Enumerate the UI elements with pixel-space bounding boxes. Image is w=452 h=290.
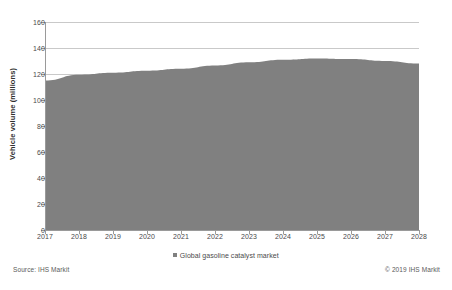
x-tick-mark-2017 xyxy=(45,230,46,234)
x-tick-label-2020: 2020 xyxy=(129,233,165,241)
x-tick-mark-2019 xyxy=(113,230,114,234)
x-tick-mark-2027 xyxy=(385,230,386,234)
legend-swatch-icon xyxy=(173,253,177,257)
x-tick-label-2022: 2022 xyxy=(197,233,233,241)
x-tick-mark-2021 xyxy=(181,230,182,234)
x-tick-mark-2026 xyxy=(351,230,352,234)
x-tick-label-2021: 2021 xyxy=(163,233,199,241)
x-tick-label-2023: 2023 xyxy=(231,233,267,241)
x-tick-label-2024: 2024 xyxy=(265,233,301,241)
copyright-note: © 2019 IHS Markit xyxy=(385,266,440,274)
x-tick-mark-2028 xyxy=(419,230,420,234)
x-tick-label-2025: 2025 xyxy=(299,233,335,241)
x-tick-label-2019: 2019 xyxy=(95,233,131,241)
source-note: Source: IHS Markit xyxy=(13,266,69,274)
legend-item-global-gasoline-catalyst-market[interactable]: Global gasoline catalyst market xyxy=(173,250,278,260)
x-tick-mark-2020 xyxy=(147,230,148,234)
y-tick-label-140: 140 xyxy=(11,45,45,52)
series-area-global-gasoline-catalyst-market xyxy=(45,22,419,230)
chart-legend: Global gasoline catalyst market xyxy=(0,250,452,260)
x-tick-mark-2025 xyxy=(317,230,318,234)
x-tick-label-2027: 2027 xyxy=(367,233,403,241)
y-tick-label-160: 160 xyxy=(11,19,45,26)
x-tick-label-2026: 2026 xyxy=(333,233,369,241)
x-tick-mark-2022 xyxy=(215,230,216,234)
y-axis-title: Vehicle volume (millions) xyxy=(9,54,17,174)
y-tick-label-40: 40 xyxy=(11,175,45,182)
x-tick-mark-2023 xyxy=(249,230,250,234)
x-tick-mark-2024 xyxy=(283,230,284,234)
x-axis-line xyxy=(45,230,419,231)
x-tick-label-2018: 2018 xyxy=(61,233,97,241)
y-tick-label-20: 20 xyxy=(11,201,45,208)
legend-item-label: Global gasoline catalyst market xyxy=(180,251,279,260)
chart-container: 020406080100120140160 Vehicle volume (mi… xyxy=(0,0,452,290)
x-axis: 2017201820192020202120222023202420252026… xyxy=(0,233,452,247)
x-tick-label-2028: 2028 xyxy=(401,233,437,241)
x-tick-mark-2018 xyxy=(79,230,80,234)
x-tick-label-2017: 2017 xyxy=(27,233,63,241)
y-axis-line xyxy=(45,22,46,231)
